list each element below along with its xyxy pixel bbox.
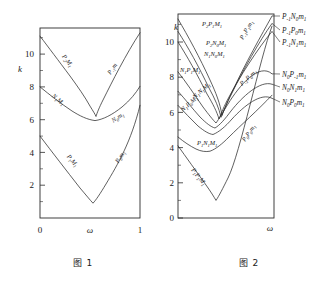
- inner-label-n1p1m1: N1P1M1: [179, 66, 200, 75]
- svg-text:P1M1: P1M1: [64, 152, 80, 169]
- svg-text:P-1m: P-1m: [105, 61, 120, 77]
- figure-2: 0 2 4 6 8 10 k ω: [166, 0, 332, 298]
- y-tick-label-0: 0: [170, 213, 175, 223]
- y-tick-label-10: 10: [25, 49, 35, 59]
- curve-label-pneg1m: P-1m: [105, 61, 120, 77]
- x-tick-label-1: 1: [138, 225, 143, 235]
- inner-label-p1p1m1: P1P1M1: [188, 166, 208, 188]
- inner-label-n1n0m1: N1N0M1: [203, 50, 225, 59]
- curve-label-n0m1: N0m1: [109, 110, 126, 125]
- inner-label-n1p0m1: N1P0M1: [178, 94, 200, 115]
- y-tick-label-2: 2: [170, 178, 175, 188]
- inner-label-pneg1p0m1: P-1P0m1: [237, 68, 259, 89]
- curve-label-p0m1: P0m1: [113, 149, 128, 166]
- svg-text:P1N1M1: P1N1M1: [196, 139, 217, 148]
- side-label-n0p0m1: N0P0m1: [281, 98, 305, 108]
- figure-pair: 2 4 6 8 10 k 0 1 ω P2M1: [0, 0, 332, 298]
- svg-text:P-1P0m1: P-1P0m1: [237, 68, 259, 89]
- y-tick-label-10: 10: [165, 37, 175, 47]
- figure-2-plot: 0 2 4 6 8 10 k ω: [166, 0, 332, 258]
- curve-label-p1m1: P1M1: [64, 152, 80, 169]
- inner-label-p2p1m1: P2P1M1: [201, 20, 222, 29]
- side-label-pneg1n1m1: P-1N1m1: [281, 38, 307, 48]
- svg-text:P1P1M1: P1P1M1: [188, 166, 208, 188]
- svg-text:N1P1M1: N1P1M1: [179, 66, 200, 75]
- x-tick-label-0: 0: [38, 225, 43, 235]
- figure-2-caption: 图 2: [166, 256, 332, 269]
- figure-1: 2 4 6 8 10 k 0 1 ω P2M1: [0, 0, 166, 298]
- svg-text:N1N0M1: N1N0M1: [203, 50, 225, 59]
- y-tick-label-8: 8: [30, 82, 35, 92]
- side-label-pneg1p0m1: P-1P0m1: [281, 26, 306, 36]
- inner-label-p2n0m1: P2N0M1: [205, 39, 226, 48]
- x-axis-label: ω: [87, 225, 93, 235]
- y-tick-label-4: 4: [170, 143, 175, 153]
- svg-text:N0m1: N0m1: [109, 110, 126, 125]
- svg-text:P-1P1m1: P-1P1m1: [237, 19, 255, 42]
- inner-label-pneg1p1m1: P-1P1m1: [237, 19, 255, 42]
- curve-label-p2m1: P2M1: [59, 52, 75, 69]
- y-tick-label-2: 2: [30, 180, 35, 190]
- svg-text:P2P1M1: P2P1M1: [201, 20, 222, 29]
- inner-label-p1n1m1: P1N1M1: [196, 139, 217, 148]
- y-tick-label-6: 6: [30, 115, 35, 125]
- x-axis-label: ω: [267, 223, 273, 233]
- y-axis-label: k: [18, 64, 23, 74]
- y-tick-label-8: 8: [170, 72, 175, 82]
- figure-1-caption: 图 1: [0, 256, 166, 269]
- label-leader-lines: [272, 16, 280, 102]
- svg-text:P0m1: P0m1: [113, 149, 128, 166]
- side-label-n0n1m1: N0N1m1: [281, 83, 305, 93]
- svg-text:P2N0M1: P2N0M1: [205, 39, 226, 48]
- svg-text:P2M1: P2M1: [59, 52, 75, 69]
- y-axis-ticks: [40, 38, 45, 202]
- figure-1-plot: 2 4 6 8 10 k 0 1 ω P2M1: [0, 0, 166, 258]
- svg-text:N1P0M1: N1P0M1: [178, 94, 200, 115]
- y-tick-label-4: 4: [30, 148, 35, 158]
- y-tick-label-6: 6: [170, 108, 175, 118]
- side-label-n0pneg1m1: N0P-1m1: [281, 70, 307, 80]
- y-axis-ticks: [178, 24, 183, 218]
- side-label-pneg1n0m1: P-1N0m1: [281, 12, 307, 22]
